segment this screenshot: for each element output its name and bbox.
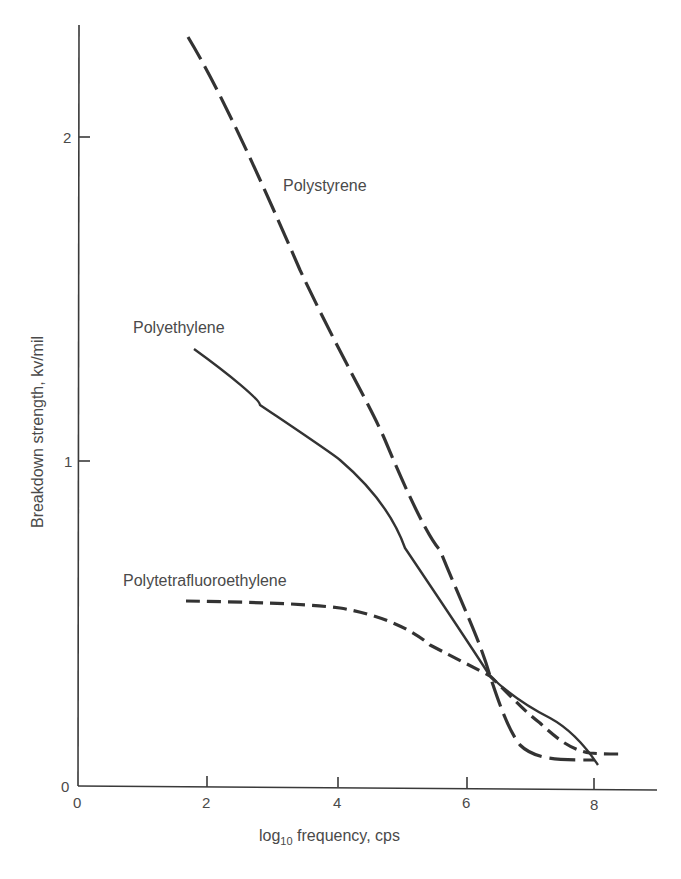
ptfe-curve — [186, 601, 622, 754]
x-axis-title-rest: frequency, cps — [293, 827, 400, 844]
x-tick-label-4: 4 — [333, 794, 341, 811]
x-axis-title-subscript: 10 — [280, 835, 292, 847]
x-tick-label-0: 0 — [73, 794, 81, 811]
y-tick-label-0: 0 — [61, 778, 69, 795]
x-tick-label-8: 8 — [590, 796, 598, 813]
breakdown-strength-chart: 0 1 2 0 2 4 6 8 Breakdown strength, kv/m… — [0, 0, 681, 879]
polystyrene-label: Polystyrene — [283, 177, 367, 194]
curves — [186, 37, 622, 765]
x-axis-title-log: log — [259, 827, 280, 844]
x-tick-label-2: 2 — [202, 794, 210, 811]
ptfe-label: Polytetrafluoroethylene — [123, 572, 287, 589]
x-tick-label-6: 6 — [462, 794, 470, 811]
polyethylene-curve — [194, 349, 598, 765]
series-labels: Polystyrene Polyethylene Polytetrafluoro… — [123, 177, 367, 589]
y-tick-label-2: 2 — [63, 129, 71, 146]
y-axis-title: Breakdown strength, kv/mil — [29, 336, 46, 528]
y-axis — [78, 25, 79, 786]
tick-labels: 0 1 2 0 2 4 6 8 — [61, 129, 598, 813]
axes — [78, 25, 657, 790]
polystyrene-curve — [188, 37, 594, 760]
y-tick-label-1: 1 — [64, 453, 72, 470]
polyethylene-label: Polyethylene — [133, 319, 225, 336]
x-axis — [78, 786, 657, 790]
x-axis-title: log10 frequency, cps — [259, 827, 400, 847]
